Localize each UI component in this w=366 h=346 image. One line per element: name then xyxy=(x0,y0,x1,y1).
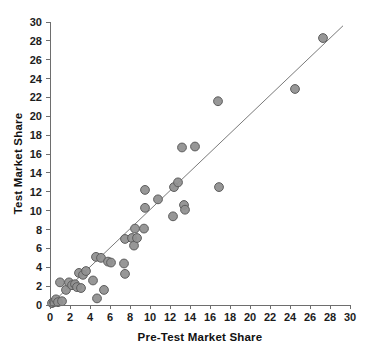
y-tick-label: 16 xyxy=(30,148,42,160)
y-axis-ticks: 024681012141618202224262830 xyxy=(30,16,50,311)
x-tick-label: 18 xyxy=(224,311,236,323)
x-tick-label: 28 xyxy=(324,311,336,323)
y-tick-label: 20 xyxy=(30,110,42,122)
data-point xyxy=(215,183,224,192)
data-point xyxy=(89,276,98,285)
data-point xyxy=(93,294,102,303)
y-tick-label: 4 xyxy=(36,261,43,273)
data-point xyxy=(77,284,86,293)
data-point xyxy=(154,195,163,204)
y-tick-label: 24 xyxy=(30,73,43,85)
data-point xyxy=(181,205,190,214)
data-point xyxy=(58,297,67,306)
x-tick-label: 10 xyxy=(144,311,156,323)
data-point xyxy=(140,224,149,233)
x-tick-label: 0 xyxy=(47,311,53,323)
x-tick-label: 12 xyxy=(164,311,176,323)
x-tick-label: 22 xyxy=(264,311,276,323)
data-point xyxy=(191,142,200,151)
y-tick-label: 26 xyxy=(30,54,42,66)
y-tick-label: 8 xyxy=(36,224,42,236)
data-point xyxy=(319,34,328,43)
y-tick-label: 6 xyxy=(36,242,42,254)
x-tick-label: 16 xyxy=(204,311,216,323)
chart-canvas: 024681012141618202224262830 024681012141… xyxy=(0,0,366,346)
data-point xyxy=(169,212,178,221)
data-point xyxy=(214,97,223,106)
y-tick-label: 10 xyxy=(30,205,42,217)
data-point xyxy=(100,286,109,295)
x-tick-label: 30 xyxy=(344,311,356,323)
x-tick-label: 2 xyxy=(67,311,73,323)
data-point xyxy=(56,278,65,287)
data-point xyxy=(291,85,300,94)
x-tick-label: 26 xyxy=(304,311,316,323)
x-tick-label: 24 xyxy=(284,311,297,323)
data-points-group xyxy=(48,34,328,308)
data-point xyxy=(107,258,116,267)
y-tick-label: 14 xyxy=(30,167,43,179)
data-point xyxy=(121,269,130,278)
x-axis-title: Pre-Test Market Share xyxy=(138,331,263,343)
x-axis-ticks: 024681012141618202224262830 xyxy=(47,305,356,323)
data-point xyxy=(82,267,91,276)
x-tick-label: 4 xyxy=(87,311,94,323)
data-point xyxy=(141,203,150,212)
data-point xyxy=(178,143,187,152)
y-tick-label: 0 xyxy=(36,299,42,311)
data-point xyxy=(120,259,129,268)
data-point xyxy=(133,234,142,243)
x-tick-label: 14 xyxy=(184,311,197,323)
y-axis-title: Test Market Share xyxy=(12,113,24,215)
data-point xyxy=(174,178,183,187)
x-tick-label: 6 xyxy=(107,311,113,323)
y-tick-label: 22 xyxy=(30,91,42,103)
y-tick-label: 18 xyxy=(30,129,42,141)
scatter-plot-figure: 024681012141618202224262830 024681012141… xyxy=(0,0,366,346)
y-tick-label: 28 xyxy=(30,35,42,47)
y-tick-label: 2 xyxy=(36,280,42,292)
y-tick-label: 30 xyxy=(30,16,42,28)
y-tick-label: 12 xyxy=(30,186,42,198)
data-point xyxy=(141,186,150,195)
x-tick-label: 20 xyxy=(244,311,256,323)
data-point xyxy=(131,224,140,233)
x-tick-label: 8 xyxy=(127,311,133,323)
